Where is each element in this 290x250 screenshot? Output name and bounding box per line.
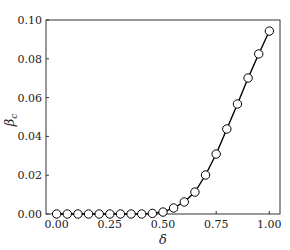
data-point-marker: [159, 208, 167, 216]
chart: 0.000.020.040.060.080.10 0.000.250.500.7…: [0, 0, 290, 250]
data-point-marker: [169, 204, 177, 212]
data-point-marker: [116, 210, 124, 218]
svg-text:βc: βc: [2, 114, 19, 128]
x-tick-label: 0.00: [44, 218, 69, 231]
data-point-marker: [265, 27, 273, 35]
x-axis-label: δ: [159, 232, 167, 247]
y-tick-label: 0.08: [18, 53, 43, 66]
plot-frame: [46, 20, 280, 214]
x-tick-label: 0.50: [151, 218, 176, 231]
y-axis-ticks: 0.000.020.040.060.080.10: [18, 14, 50, 221]
y-tick-label: 0.10: [18, 14, 43, 27]
data-point-marker: [84, 210, 92, 218]
data-point-marker: [244, 74, 252, 82]
y-tick-label: 0.02: [18, 169, 43, 182]
x-tick-label: 0.25: [98, 218, 123, 231]
data-point-marker: [212, 150, 220, 158]
y-tick-label: 0.04: [18, 130, 43, 143]
data-point-marker: [223, 125, 231, 133]
x-tick-label: 0.75: [204, 218, 229, 231]
data-point-marker: [74, 210, 82, 218]
data-series: [52, 27, 273, 218]
series-line: [57, 31, 270, 214]
data-point-marker: [191, 188, 199, 196]
data-point-marker: [106, 210, 114, 218]
data-point-marker: [201, 171, 209, 179]
data-point-marker: [52, 210, 60, 218]
data-point-marker: [127, 210, 135, 218]
y-tick-label: 0.00: [18, 208, 43, 221]
data-point-marker: [255, 50, 263, 58]
y-axis-label: βc: [2, 114, 19, 128]
data-point-marker: [148, 209, 156, 217]
x-tick-label: 1.00: [257, 218, 282, 231]
data-point-marker: [180, 198, 188, 206]
data-point-marker: [233, 100, 241, 108]
data-point-marker: [95, 210, 103, 218]
y-tick-label: 0.06: [18, 92, 43, 105]
data-point-marker: [63, 210, 71, 218]
data-point-marker: [138, 210, 146, 218]
